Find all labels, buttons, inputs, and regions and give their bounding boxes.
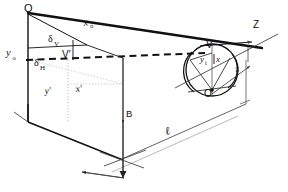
base-cross-line bbox=[104, 150, 146, 166]
ell-dimension-line bbox=[124, 104, 246, 158]
label-y-i: y i bbox=[199, 54, 207, 66]
point-label-Vprime: V′ bbox=[62, 49, 71, 60]
image-ray-left bbox=[190, 60, 212, 90]
point-label-B: B bbox=[126, 108, 132, 119]
sight-ray-q-to-eye bbox=[28, 13, 262, 48]
label-ell-base: ℓ bbox=[164, 124, 172, 137]
label-z-small-base: z bbox=[233, 63, 240, 74]
figure-root: Q V′ B V O Z x o y o δ V bbox=[0, 0, 288, 192]
ground-front-left-edge bbox=[14, 112, 28, 122]
base-cross-line-2 bbox=[100, 152, 144, 168]
point-label-Q: Q bbox=[24, 2, 33, 14]
label-delta-H-sub: H bbox=[40, 64, 45, 72]
perspective-geometry-diagram: Q V′ B V O Z x o y o δ V bbox=[0, 0, 288, 192]
point-label-O: O bbox=[204, 88, 212, 99]
label-delta-V-base: δ bbox=[48, 33, 53, 44]
point-label-Z: Z bbox=[253, 19, 259, 30]
object-inner-slant bbox=[87, 45, 123, 58]
sight-ray-group bbox=[28, 13, 262, 48]
object-frame bbox=[14, 14, 123, 160]
image-ray-right bbox=[212, 58, 230, 90]
label-z-small: z bbox=[233, 63, 240, 74]
label-x-image: x bbox=[215, 54, 220, 64]
label-x-o: x o bbox=[81, 15, 94, 30]
label-y-o: y o bbox=[5, 47, 16, 61]
label-ell: ℓ bbox=[164, 124, 172, 137]
point-label-V: V bbox=[206, 39, 213, 50]
label-y-o-base: y bbox=[5, 47, 11, 58]
label-x-prime: x′ bbox=[74, 83, 83, 94]
base-point-group bbox=[82, 120, 146, 178]
label-delta-H-base: δ bbox=[34, 57, 39, 68]
base-arrow-to-left bbox=[82, 172, 124, 178]
point-labels: Q V′ B V O Z bbox=[24, 2, 259, 119]
label-x-image-base: x bbox=[215, 54, 220, 64]
ell-right-tick bbox=[240, 100, 250, 104]
label-y-i-sub: i bbox=[205, 60, 207, 66]
line-of-sight-group bbox=[26, 53, 205, 60]
label-delta-V-sub: V bbox=[54, 40, 59, 48]
label-delta-V: δ V bbox=[48, 33, 59, 48]
label-y-prime: y′ bbox=[43, 85, 52, 96]
label-y-prime-base: y′ bbox=[43, 85, 52, 96]
label-y-o-sub: o bbox=[13, 54, 16, 61]
dashed-line-of-sight bbox=[26, 53, 205, 60]
object-bottom-left-edge bbox=[28, 122, 123, 160]
label-x-prime-base: x′ bbox=[74, 83, 83, 94]
label-y-i-base: y bbox=[199, 54, 204, 64]
